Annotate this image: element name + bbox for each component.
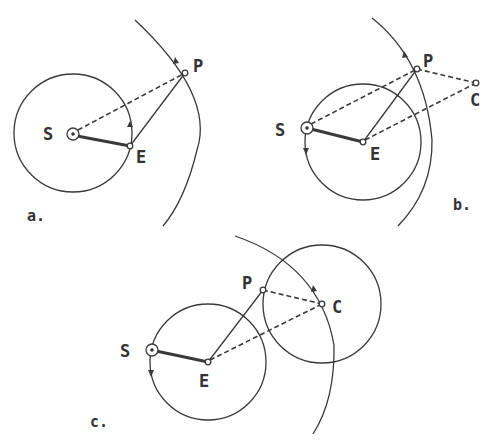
label-P: P <box>193 56 203 76</box>
label-P: P <box>423 51 433 71</box>
panel-label-a: a. <box>27 207 45 225</box>
planet-point <box>260 287 266 293</box>
planet-orbit-arc <box>372 18 432 226</box>
earth-point <box>360 139 366 145</box>
planet-orbit-arc <box>235 236 334 434</box>
earth-point <box>205 359 211 365</box>
center-point <box>473 80 479 86</box>
planet-center-dashed-line <box>417 69 476 83</box>
orbit-direction-arrow-icon <box>127 121 133 127</box>
panel-c: S E P C c. <box>90 236 381 434</box>
panel-label-c: c. <box>90 413 108 431</box>
sun-center-dot-icon <box>305 126 309 130</box>
label-E: E <box>136 147 146 167</box>
center-point <box>319 301 325 307</box>
label-C: C <box>332 297 342 317</box>
earth-center-dashed-line <box>210 304 322 360</box>
orbit-direction-arrow-icon <box>303 148 309 155</box>
label-E: E <box>199 371 209 391</box>
label-S: S <box>43 124 53 144</box>
sun-earth-line <box>311 129 363 142</box>
orbit-direction-arrow-icon <box>173 57 179 64</box>
label-S: S <box>275 120 285 140</box>
planet-point <box>414 66 420 72</box>
panel-label-b: b. <box>453 196 471 214</box>
diagram-canvas: S E P a. S E P C b. <box>0 0 496 448</box>
label-S: S <box>120 341 130 361</box>
planet-orbit-arc <box>135 20 200 226</box>
earth-planet-line <box>208 290 263 362</box>
panel-b: S E P C b. <box>275 18 480 226</box>
sun-center-dot-icon <box>150 348 154 352</box>
sun-earth-line <box>156 351 208 362</box>
earth-point <box>127 143 133 149</box>
panel-a: S E P a. <box>14 20 203 226</box>
label-E: E <box>370 144 380 164</box>
planet-point <box>182 70 188 76</box>
label-C: C <box>470 90 480 110</box>
earth-planet-line <box>130 73 185 146</box>
sun-center-dot-icon <box>71 132 75 136</box>
orbit-direction-arrow-icon <box>148 370 154 377</box>
label-P: P <box>242 273 252 293</box>
sun-earth-line <box>77 136 130 146</box>
orbit-direction-arrow-icon <box>311 285 317 292</box>
